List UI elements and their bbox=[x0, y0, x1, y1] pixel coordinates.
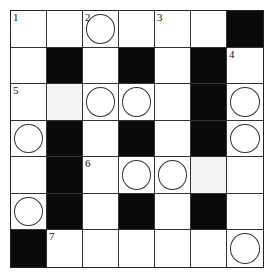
crossword-cell[interactable] bbox=[155, 121, 191, 158]
crossword-cell[interactable] bbox=[191, 11, 227, 48]
black-cell bbox=[47, 194, 83, 231]
crossword-cell[interactable] bbox=[227, 121, 263, 158]
black-cell bbox=[119, 121, 155, 158]
crossword-cell[interactable] bbox=[11, 121, 47, 158]
crossword-cell[interactable] bbox=[83, 230, 119, 267]
clue-number: 6 bbox=[85, 157, 91, 169]
circle-marker-icon bbox=[158, 160, 187, 190]
black-cell bbox=[47, 121, 83, 158]
black-cell bbox=[191, 121, 227, 158]
crossword-cell[interactable] bbox=[227, 157, 263, 194]
crossword-cell[interactable]: 6 bbox=[83, 157, 119, 194]
black-cell bbox=[119, 48, 155, 85]
crossword-cell[interactable]: 2 bbox=[83, 11, 119, 48]
circle-marker-icon bbox=[86, 87, 115, 117]
black-cell bbox=[47, 48, 83, 85]
black-cell bbox=[227, 11, 263, 48]
crossword-cell[interactable] bbox=[155, 157, 191, 194]
black-cell bbox=[11, 230, 47, 267]
black-cell bbox=[47, 157, 83, 194]
circle-marker-icon bbox=[230, 124, 260, 154]
crossword-cell[interactable]: 5 bbox=[11, 84, 47, 121]
clue-number: 2 bbox=[85, 11, 91, 23]
crossword-cell[interactable] bbox=[191, 157, 227, 194]
crossword-cell[interactable] bbox=[155, 84, 191, 121]
crossword-cell[interactable] bbox=[119, 84, 155, 121]
circle-marker-icon bbox=[14, 197, 43, 227]
crossword-cell[interactable] bbox=[83, 48, 119, 85]
crossword-cell[interactable]: 4 bbox=[227, 48, 263, 85]
black-cell bbox=[191, 194, 227, 231]
circle-marker-icon bbox=[122, 87, 151, 117]
clue-number: 1 bbox=[13, 11, 19, 23]
circle-marker-icon bbox=[230, 87, 260, 117]
crossword-cell[interactable] bbox=[227, 84, 263, 121]
crossword-cell[interactable] bbox=[119, 230, 155, 267]
crossword-cell[interactable] bbox=[119, 11, 155, 48]
black-cell bbox=[119, 194, 155, 231]
circle-marker-icon bbox=[230, 233, 260, 264]
crossword-cell[interactable] bbox=[155, 194, 191, 231]
crossword-cell[interactable] bbox=[83, 194, 119, 231]
crossword-cell[interactable] bbox=[155, 230, 191, 267]
black-cell bbox=[191, 48, 227, 85]
circle-marker-icon bbox=[14, 124, 43, 154]
clue-number: 5 bbox=[13, 84, 19, 96]
crossword-cell[interactable] bbox=[227, 230, 263, 267]
crossword-cell[interactable] bbox=[191, 230, 227, 267]
crossword-cell[interactable] bbox=[119, 157, 155, 194]
crossword-cell[interactable] bbox=[227, 194, 263, 231]
crossword-cell[interactable] bbox=[11, 194, 47, 231]
black-cell bbox=[191, 84, 227, 121]
crossword-cell[interactable] bbox=[11, 157, 47, 194]
crossword-cell[interactable]: 3 bbox=[155, 11, 191, 48]
crossword-cell[interactable]: 1 bbox=[11, 11, 47, 48]
clue-number: 7 bbox=[49, 230, 55, 242]
crossword-cell[interactable] bbox=[83, 84, 119, 121]
crossword-cell[interactable]: 7 bbox=[47, 230, 83, 267]
clue-number: 3 bbox=[157, 11, 163, 23]
crossword-cell[interactable] bbox=[155, 48, 191, 85]
crossword-grid: 1234567 bbox=[10, 10, 264, 268]
crossword-cell[interactable] bbox=[83, 121, 119, 158]
crossword-cell[interactable] bbox=[11, 48, 47, 85]
clue-number: 4 bbox=[229, 48, 235, 60]
crossword-cell[interactable] bbox=[47, 84, 83, 121]
circle-marker-icon bbox=[122, 160, 151, 190]
crossword-cell[interactable] bbox=[47, 11, 83, 48]
